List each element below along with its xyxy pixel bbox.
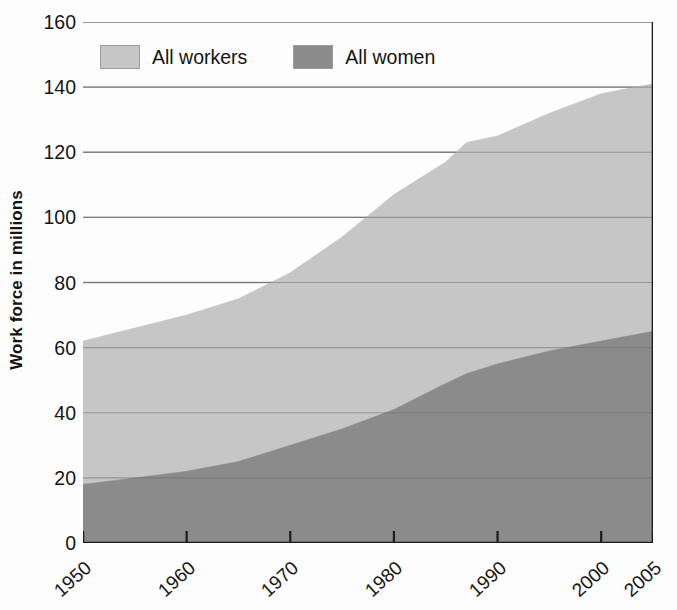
x-axis-tick-label: 1970: [257, 557, 303, 602]
y-axis-tick-label: 80: [32, 271, 76, 294]
plot-area: [83, 22, 653, 543]
y-axis-tick-label: 120: [32, 141, 76, 164]
y-axis-tick-label: 60: [32, 336, 76, 359]
x-axis-tick-label: 1980: [361, 557, 407, 602]
legend-entry[interactable]: All women: [293, 45, 435, 69]
legend-entry[interactable]: All workers: [100, 45, 247, 69]
x-axis-tick-label: 1990: [464, 557, 510, 602]
y-axis-tick-labels: 160140120100806040200: [26, 0, 76, 610]
legend-color-swatch: [100, 45, 140, 69]
x-axis-tick-label: 2000: [568, 557, 614, 602]
legend-color-swatch: [293, 45, 333, 69]
y-axis-tick-label: 20: [32, 466, 76, 489]
legend-label: All women: [345, 46, 435, 69]
legend-label: All workers: [152, 46, 247, 69]
y-axis-tick-label: 140: [32, 76, 76, 99]
chart-figure: Work force in millions 16014012010080604…: [0, 0, 677, 610]
x-axis-tick-label: 1960: [153, 557, 199, 602]
y-axis-tick-label: 160: [32, 11, 76, 34]
chart-svg: [83, 22, 653, 543]
y-axis-tick-label: 100: [32, 206, 76, 229]
y-axis-tick-label: 0: [32, 532, 76, 555]
chart-legend: All workersAll women: [100, 45, 435, 69]
x-axis-tick-label: 2005: [620, 557, 666, 602]
y-axis-title: Work force in millions: [7, 190, 27, 369]
y-axis-tick-label: 40: [32, 401, 76, 424]
